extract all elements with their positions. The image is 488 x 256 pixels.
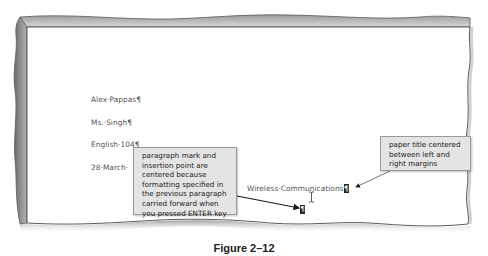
- arrow-to-title: [356, 171, 390, 187]
- arrow-to-paragraph-mark: [237, 196, 299, 208]
- figure-caption: Figure 2–12: [0, 242, 488, 254]
- callout-arrows: [0, 0, 488, 256]
